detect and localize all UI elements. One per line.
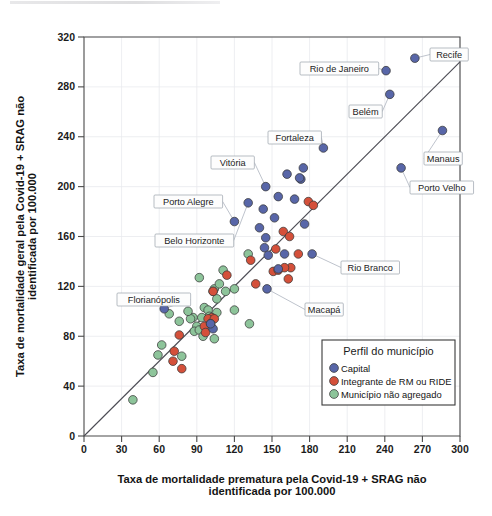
legend-entry-label: Capital — [341, 363, 370, 374]
data-point — [261, 233, 270, 242]
y-tick-label: 0 — [69, 430, 75, 442]
data-point — [175, 331, 184, 340]
data-point — [169, 357, 178, 366]
y-axis-title-line2: identificada por 100.000 — [26, 173, 38, 300]
y-tick-label: 200 — [57, 180, 75, 192]
x-tick-label: 240 — [376, 443, 394, 455]
data-point — [149, 368, 158, 377]
data-point — [223, 271, 232, 280]
scatter-plot-figure: 0306090120150180210240270300 04080120160… — [0, 0, 492, 516]
data-point — [154, 351, 163, 360]
y-tick-label: 280 — [57, 80, 75, 92]
data-point — [386, 90, 395, 99]
data-point — [251, 280, 260, 289]
data-point — [300, 220, 309, 229]
y-tick-label: 240 — [57, 130, 75, 142]
data-point — [261, 182, 270, 191]
x-tick-label: 30 — [116, 443, 128, 455]
legend-swatch — [330, 390, 339, 399]
x-axis-title-line2: identificada por 100.000 — [209, 485, 336, 497]
data-point — [210, 334, 219, 343]
data-point — [319, 144, 328, 153]
x-tick-labels: 0306090120150180210240270300 — [81, 443, 469, 455]
y-tick-label: 120 — [57, 280, 75, 292]
data-point — [270, 213, 279, 222]
legend-swatch — [330, 377, 339, 386]
data-point — [283, 170, 292, 179]
scatter-plot-svg: 0306090120150180210240270300 04080120160… — [0, 0, 492, 516]
data-point — [244, 199, 253, 208]
annotation-label: Belo Horizonte — [164, 236, 224, 246]
data-point — [294, 250, 303, 259]
legend-entry-label: Integrante de RM ou RIDE — [341, 376, 451, 387]
data-point — [170, 347, 179, 356]
data-point — [397, 164, 406, 173]
data-point — [209, 287, 218, 296]
data-point — [245, 319, 254, 328]
data-point — [290, 195, 299, 204]
data-point — [184, 307, 193, 316]
data-point — [129, 396, 138, 405]
data-point — [215, 280, 224, 289]
data-point — [284, 275, 293, 284]
data-point — [177, 364, 186, 373]
annotation-label: Macapá — [308, 305, 342, 315]
y-axis-title: Taxa de mortalidade geral pela Covid-19 … — [14, 96, 26, 377]
y-tick-label: 160 — [57, 230, 75, 242]
legend-title: Perfil do município — [343, 345, 434, 357]
data-point — [271, 245, 280, 254]
annotation-label: Rio Branco — [348, 263, 393, 273]
data-point — [411, 54, 420, 63]
x-tick-label: 270 — [414, 443, 432, 455]
data-point — [206, 319, 215, 328]
y-tick-label: 80 — [63, 330, 75, 342]
data-point — [308, 250, 317, 259]
data-point — [195, 273, 204, 282]
x-tick-label: 60 — [153, 443, 165, 455]
data-point — [274, 192, 283, 201]
data-point — [295, 174, 304, 183]
annotation-label: Porto Velho — [418, 183, 466, 193]
x-tick-label: 210 — [338, 443, 356, 455]
data-point — [309, 201, 318, 210]
annotation-label: Florianópolis — [128, 295, 180, 305]
x-tick-label: 150 — [263, 443, 281, 455]
annotation-label: Manaus — [427, 154, 460, 164]
data-point — [230, 306, 239, 315]
legend-entry-label: Município não agregado — [341, 389, 442, 400]
scan-artifact — [10, 1, 220, 4]
x-tick-label: 120 — [226, 443, 244, 455]
data-point — [274, 265, 283, 274]
y-tick-label: 320 — [57, 31, 75, 43]
data-point — [264, 251, 273, 260]
y-tick-labels: 04080120160200240280320 — [57, 31, 75, 442]
data-point — [230, 217, 239, 226]
annotation-label: Belém — [353, 107, 379, 117]
data-point — [259, 205, 268, 214]
data-point — [382, 66, 391, 75]
x-tick-label: 180 — [301, 443, 319, 455]
data-point — [230, 285, 239, 294]
legend-swatch — [330, 364, 339, 373]
annotation-label: Recife — [436, 50, 462, 60]
x-tick-label: 0 — [81, 443, 87, 455]
annotation-label: Fortaleza — [276, 133, 315, 143]
data-point — [285, 232, 294, 241]
annotation-label: Vitória — [220, 158, 247, 168]
x-tick-label: 90 — [191, 443, 203, 455]
y-tick-label: 40 — [63, 380, 75, 392]
annotation-label: Porto Alegre — [163, 197, 214, 207]
annotation-label: Rio de Janeiro — [310, 64, 369, 74]
data-point — [221, 287, 230, 296]
data-point — [157, 341, 166, 350]
legend: Perfil do municípioCapitalIntegrante de … — [322, 340, 455, 405]
x-tick-label: 300 — [451, 443, 469, 455]
data-point — [299, 164, 308, 173]
annotation-callouts: RecifeRio de JaneiroBelémManausPorto Vel… — [117, 48, 474, 316]
data-point — [246, 256, 255, 265]
data-point — [175, 317, 184, 326]
data-point — [280, 250, 289, 259]
x-axis-title: Taxa de mortalidade prematura pela Covid… — [117, 473, 426, 485]
data-point — [177, 352, 186, 361]
data-point — [255, 223, 264, 232]
